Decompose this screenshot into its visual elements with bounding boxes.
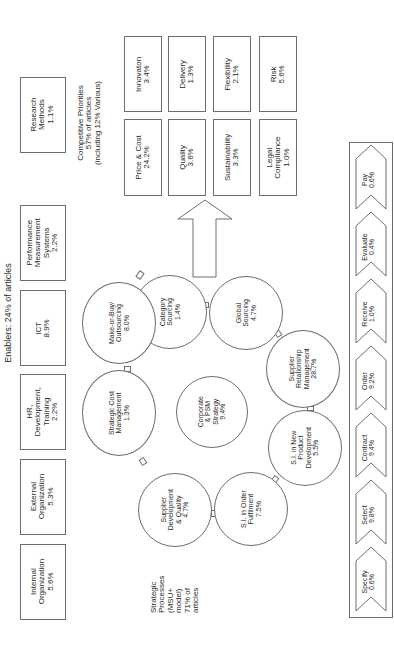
step-specify: Specify 0.6% xyxy=(361,557,381,607)
step-receive: Receive 1.0% xyxy=(361,289,381,339)
step-order: Order 9.2% xyxy=(361,356,381,406)
step-pay: Pay 0.6% xyxy=(361,155,381,205)
chevron-steps xyxy=(0,0,394,656)
step-evaluate: Evaluate 0.4% xyxy=(361,222,381,272)
step-contract: Contract 9.4% xyxy=(361,423,381,473)
step-select: Select 9.8% xyxy=(361,490,381,540)
